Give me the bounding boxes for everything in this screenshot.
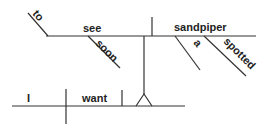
svg-text:to: to bbox=[30, 7, 46, 23]
svg-text:see: see bbox=[83, 22, 101, 34]
svg-text:a: a bbox=[191, 37, 205, 50]
word-sandpiper: sandpiper bbox=[174, 21, 227, 33]
svg-text:want: want bbox=[81, 92, 107, 104]
svg-text:I: I bbox=[27, 92, 30, 104]
word-spotted: spotted bbox=[222, 35, 259, 72]
word-want: want bbox=[81, 92, 107, 104]
pedestal bbox=[136, 94, 152, 106]
word-soon: soon bbox=[94, 37, 121, 64]
sentence-diagram: to see soon sandpiper a spotted I want bbox=[0, 0, 270, 130]
svg-text:sandpiper: sandpiper bbox=[174, 21, 227, 33]
svg-text:spotted: spotted bbox=[222, 35, 259, 72]
word-see: see bbox=[83, 22, 101, 34]
word-a: a bbox=[191, 37, 205, 50]
svg-text:soon: soon bbox=[94, 37, 121, 64]
word-to: to bbox=[30, 7, 46, 23]
word-I: I bbox=[27, 92, 30, 104]
